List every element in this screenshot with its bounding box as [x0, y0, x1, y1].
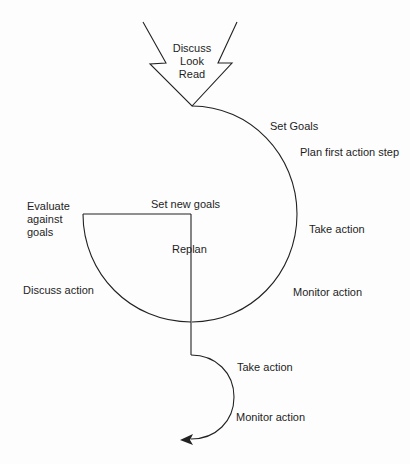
input-arrow-line: Read [162, 68, 222, 81]
label-discuss-action: Discuss action [23, 284, 94, 297]
final-cycle-arc [191, 355, 234, 439]
evaluate-line: against [27, 213, 70, 226]
label-set-goals: Set Goals [270, 120, 318, 133]
inner-cycle-arc [83, 214, 191, 322]
label-plan-first-action-step: Plan first action step [300, 146, 399, 159]
evaluate-line: goals [27, 226, 70, 239]
label-set-new-goals: Set new goals [151, 198, 220, 211]
label-take-action-final: Take action [237, 361, 293, 374]
input-arrow-line: Discuss [162, 42, 222, 55]
label-take-action-outer: Take action [309, 223, 365, 236]
label-monitor-action-final: Monitor action [236, 411, 305, 424]
outer-cycle-arc [192, 106, 297, 322]
evaluate-line: Evaluate [27, 200, 70, 213]
input-arrow-line: Look [162, 55, 222, 68]
input-arrow-label: Discuss Look Read [162, 42, 222, 81]
label-monitor-action-outer: Monitor action [293, 286, 362, 299]
label-evaluate-against-goals: Evaluate against goals [27, 200, 70, 239]
label-replan: Replan [172, 243, 207, 256]
